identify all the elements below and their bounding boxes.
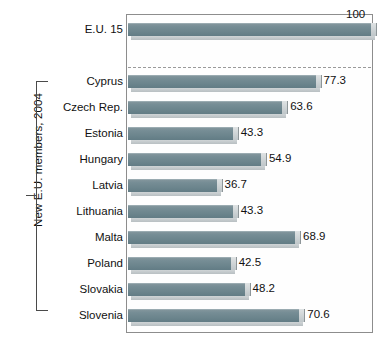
bar-value-label: 36.7 <box>225 178 247 191</box>
bar-poland <box>128 257 232 270</box>
category-axis-labels: E.U. 15CyprusCzech Rep.EstoniaHungaryLat… <box>40 14 125 332</box>
bar-value-label: 54.9 <box>269 152 291 165</box>
bar-malta <box>128 231 296 244</box>
category-label-estonia: Estonia <box>38 127 123 139</box>
plot-frame: 10077.363.643.354.936.743.368.942.548.27… <box>126 14 373 333</box>
bar-endcap <box>371 23 377 36</box>
bar-value-label: 100 <box>346 8 365 21</box>
bar-e-u-15 <box>128 23 372 36</box>
bar-czech-rep <box>128 101 283 114</box>
category-label-hungary: Hungary <box>38 153 123 165</box>
bar-latvia <box>128 179 218 192</box>
bar-endcap <box>233 205 239 218</box>
bar-underside <box>131 322 303 326</box>
category-label-e-u-15: E.U. 15 <box>38 23 123 35</box>
bar-endcap <box>282 101 288 114</box>
bar-row: 48.2 <box>127 283 374 300</box>
category-label-czech-rep: Czech Rep. <box>38 101 123 113</box>
group-bracket-tick <box>26 195 37 196</box>
bar-endcap <box>231 257 237 270</box>
category-label-slovakia: Slovakia <box>38 283 123 295</box>
bar-chart-figure: New E.U. members, 2004 E.U. 15CyprusCzec… <box>0 0 389 348</box>
bar-underside <box>131 140 237 144</box>
category-label-lithuania: Lithuania <box>38 205 123 217</box>
bar-underside <box>131 296 249 300</box>
bar-cyprus <box>128 75 317 88</box>
plot-area: 10077.363.643.354.936.743.368.942.548.27… <box>127 15 372 332</box>
bar-endcap <box>217 179 223 192</box>
bar-underside <box>131 114 286 118</box>
bar-row: 43.3 <box>127 205 374 222</box>
bar-endcap <box>245 283 251 296</box>
bar-hungary <box>128 153 262 166</box>
bar-row: 70.6 <box>127 309 374 326</box>
bar-row: 43.3 <box>127 127 374 144</box>
category-label-malta: Malta <box>38 231 123 243</box>
bar-value-label: 43.3 <box>241 204 263 217</box>
bar-value-label: 43.3 <box>241 126 263 139</box>
bar-underside <box>131 192 221 196</box>
bar-endcap <box>295 231 301 244</box>
bar-endcap <box>316 75 322 88</box>
bar-endcap <box>299 309 305 322</box>
bar-underside <box>131 218 237 222</box>
bar-lithuania <box>128 205 234 218</box>
bar-underside <box>131 166 265 170</box>
bar-endcap <box>261 153 267 166</box>
bar-row: 42.5 <box>127 257 374 274</box>
bar-row: 68.9 <box>127 231 374 248</box>
bar-endcap <box>233 127 239 140</box>
bar-row: 36.7 <box>127 179 374 196</box>
group-divider-dashed-line <box>128 67 371 68</box>
category-label-latvia: Latvia <box>38 179 123 191</box>
bar-row: 77.3 <box>127 75 374 92</box>
bar-value-label: 48.2 <box>253 282 275 295</box>
bar-estonia <box>128 127 234 140</box>
bar-value-label: 68.9 <box>303 230 325 243</box>
category-label-poland: Poland <box>38 257 123 269</box>
bar-underside <box>131 244 299 248</box>
bar-row: 100 <box>127 23 374 40</box>
bar-slovenia <box>128 309 300 322</box>
bar-value-label: 77.3 <box>324 74 346 87</box>
bar-underside <box>131 270 235 274</box>
bar-row: 63.6 <box>127 101 374 118</box>
bar-value-label: 42.5 <box>239 256 261 269</box>
category-label-cyprus: Cyprus <box>38 75 123 87</box>
bar-slovakia <box>128 283 246 296</box>
bar-row: 54.9 <box>127 153 374 170</box>
bar-underside <box>131 36 375 40</box>
category-label-slovenia: Slovenia <box>38 309 123 321</box>
bar-underside <box>131 88 320 92</box>
bar-value-label: 63.6 <box>290 100 312 113</box>
bar-value-label: 70.6 <box>307 308 329 321</box>
